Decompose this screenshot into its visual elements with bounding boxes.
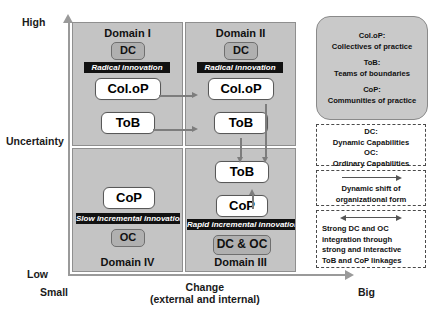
legend-double-arrow-box: Strong DC and OC integration through str…	[316, 210, 426, 268]
domain-4-innovation-banner: Slow incremental innovation	[76, 213, 180, 224]
domain-1-capability-chip: DC	[111, 42, 145, 60]
arrow-tob-d2-to-d3-head-icon	[237, 157, 243, 163]
arrow-coloop-d2-to-d3-line	[265, 104, 267, 159]
legend-capabilities-box: DC: Dynamic Capabilities OC: Ordinary Ca…	[316, 124, 426, 166]
domain-3-capability-chip: DC & OC	[213, 235, 271, 255]
legend-double-arrow-line3: strong and interactive	[322, 245, 425, 256]
domain-2-node-tob: ToB	[214, 112, 268, 134]
arrow-tob-d1-to-d2-head-icon	[192, 126, 198, 132]
quadrant-domain-1: Domain I DC Radical innovation Col.oP To…	[72, 22, 183, 146]
legend-term-cop: CoP: Communities of practice	[328, 84, 417, 106]
x-axis-arrowhead-icon	[345, 270, 354, 280]
domain-3-innovation-banner: Rapid incremental innovation	[187, 219, 295, 230]
domain-4-node-cop: CoP	[103, 187, 155, 209]
legend-double-arrow-line1: Strong DC and OC	[322, 224, 425, 235]
domain-4-capability-chip: OC	[111, 229, 145, 247]
legend-double-arrow-line2: integration through	[322, 235, 425, 246]
domain-3-node-cop: CoP	[216, 195, 268, 217]
arrow-cop-to-tob-d3-line	[252, 193, 254, 209]
domain-1-title: Domain I	[73, 27, 182, 39]
arrow-tob-d1-to-d2-line	[153, 129, 193, 131]
legend-single-arrow-line1: Dynamic shift of	[317, 184, 425, 195]
x-axis-big-label: Big	[358, 286, 375, 298]
domain-4-title: Domain IV	[73, 256, 182, 268]
domain-1-node-coloop: Col.oP	[95, 78, 161, 100]
quadrant-grid: Domain I DC Radical innovation Col.oP To…	[72, 22, 296, 272]
arrow-coloop-d1-to-d2-line	[159, 95, 193, 97]
legend-double-arrow-line4: ToB and CoP linkages	[322, 256, 425, 267]
quadrant-domain-2: Domain II DC Radical innovation Col.oP T…	[185, 22, 296, 146]
domain-3-title: Domain III	[186, 256, 295, 268]
x-axis-small-label: Small	[40, 286, 68, 298]
legend-dc-full: Dynamic Capabilities	[317, 138, 425, 149]
single-arrow-icon	[340, 173, 402, 183]
legend-term-cop-full: Communities of practice	[328, 95, 417, 106]
y-axis-low-label: Low	[27, 268, 48, 280]
legend-term-coloop-abbr: Col.oP:	[332, 30, 413, 41]
arrow-tob-d2-to-d3-line	[240, 138, 242, 159]
domain-1-innovation-banner: Radical innovation	[84, 62, 170, 73]
arrow-cop-to-tob-d3-head-icon	[249, 189, 255, 195]
legend-single-arrow-line2: organizational form	[317, 195, 425, 206]
domain-1-node-tob: ToB	[101, 112, 155, 134]
domain-2-innovation-banner: Radical innovation	[197, 62, 283, 73]
quadrant-domain-4: CoP Slow incremental innovation OC Domai…	[72, 148, 183, 272]
y-axis-title: Uncertainty	[6, 135, 64, 147]
diagram-canvas: High Low Uncertainty Small Big Change (e…	[0, 0, 436, 310]
x-axis-title-line2: (external and internal)	[150, 293, 260, 305]
domain-2-title: Domain II	[186, 27, 295, 39]
legend-term-coloop: Col.oP: Collectives of practice	[332, 30, 413, 52]
domain-2-node-coloop: Col.oP	[208, 78, 274, 100]
x-axis-line	[68, 274, 348, 276]
legend-term-cop-abbr: CoP:	[328, 84, 417, 95]
legend-terms-box: Col.oP: Collectives of practice ToB: Tea…	[316, 16, 428, 120]
legend-term-tob: ToB: Teams of boundaries	[334, 57, 410, 79]
arrow-coloop-d1-to-d2-head-icon	[192, 92, 198, 98]
domain-3-node-tob: ToB	[215, 161, 269, 183]
legend-term-coloop-full: Collectives of practice	[332, 41, 413, 52]
double-arrow-icon	[340, 213, 402, 223]
legend-single-arrow-box: Dynamic shift of organizational form	[316, 170, 426, 206]
quadrant-domain-3: ToB CoP Rapid incremental innovation DC …	[185, 148, 296, 272]
y-axis-high-label: High	[22, 16, 45, 28]
legend-dc-abbr: DC:	[317, 127, 425, 138]
domain-2-capability-chip: DC	[224, 42, 258, 60]
y-axis-line	[68, 20, 70, 275]
legend-oc-abbr: OC:	[317, 148, 425, 159]
legend-term-tob-abbr: ToB:	[334, 57, 410, 68]
x-axis-title: Change (external and internal)	[150, 281, 260, 305]
legend-oc-full: Ordinary Capabilities	[317, 159, 425, 170]
legend-term-tob-full: Teams of boundaries	[334, 68, 410, 79]
arrow-coloop-d2-to-d3-head-icon	[262, 157, 268, 163]
x-axis-title-line1: Change	[150, 281, 260, 293]
